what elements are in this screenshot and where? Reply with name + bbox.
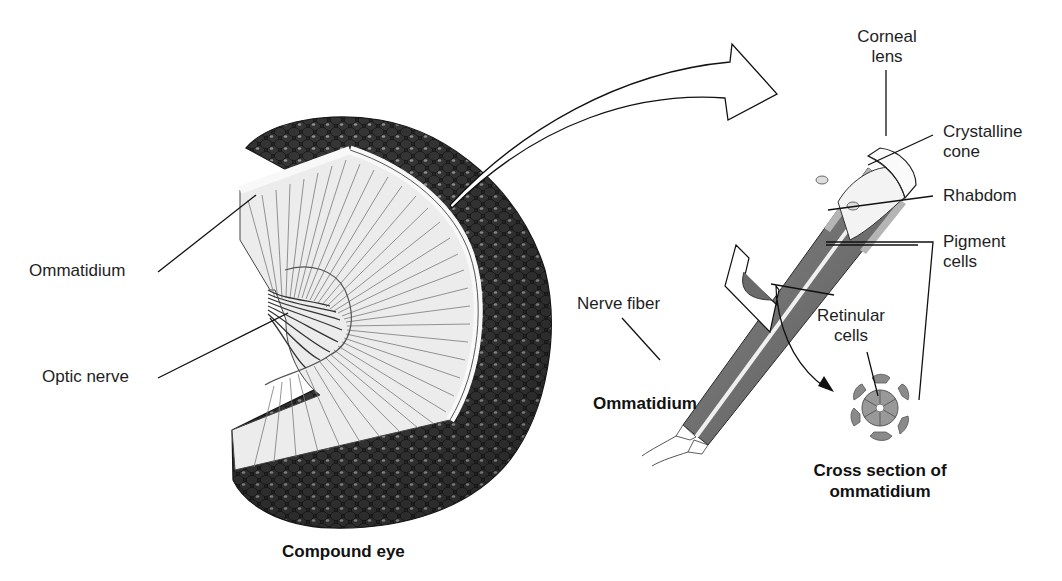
label-retinular-cells-line2: cells <box>808 326 894 346</box>
label-crystalline-cone-line2: cone <box>943 142 1022 162</box>
label-optic-nerve: Optic nerve <box>42 367 129 387</box>
label-pigment-cells-line2: cells <box>943 252 1005 272</box>
label-corneal-lens-line1: Corneal <box>851 27 923 47</box>
label-crystalline-cone-line1: Crystalline <box>943 122 1022 142</box>
label-corneal-lens-line2: lens <box>851 47 923 67</box>
label-pigment-cells-line1: Pigment <box>943 232 1005 252</box>
caption-cross-section-line1: Cross section of <box>795 460 965 481</box>
label-rhabdom: Rhabdom <box>943 186 1017 206</box>
compound-eye-diagram: Ommatidium Optic nerve Compound eye Corn… <box>0 0 1062 581</box>
label-retinular-cells-line1: Retinular <box>808 306 894 326</box>
caption-cross-section-line2: ommatidium <box>795 481 965 502</box>
cross-section-illustration <box>851 374 909 440</box>
label-nerve-fiber: Nerve fiber <box>577 294 660 314</box>
label-crystalline-cone: Crystalline cone <box>943 122 1022 162</box>
compound-eye-illustration <box>232 117 551 528</box>
label-retinular-cells: Retinular cells <box>808 306 894 346</box>
caption-cross-section: Cross section of ommatidium <box>795 460 965 502</box>
label-pigment-cells: Pigment cells <box>943 232 1005 272</box>
label-corneal-lens: Corneal lens <box>851 27 923 67</box>
caption-compound-eye: Compound eye <box>282 541 405 562</box>
magnify-arrow <box>450 44 777 208</box>
caption-ommatidium: Ommatidium <box>593 393 697 414</box>
label-ommatidium: Ommatidium <box>29 261 125 281</box>
